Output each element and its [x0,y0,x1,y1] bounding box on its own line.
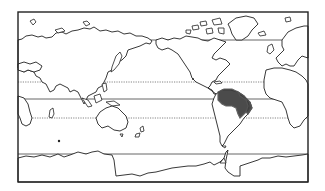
map-svg [0,0,325,191]
isolated-island-dot [58,140,60,142]
arctic-island-1 [192,25,199,30]
franz-josef-island [285,17,291,22]
small-island-dot [192,78,194,80]
arctic-island-5 [218,28,224,34]
arctic-island-2 [200,21,207,26]
cuba-island [214,81,222,84]
arctic-island-6 [186,30,191,34]
arctic-island-3 [206,28,213,34]
world-map: Distribution range map [0,0,325,191]
